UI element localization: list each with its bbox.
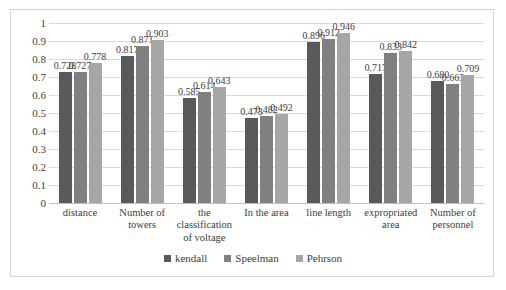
bar[interactable] <box>136 46 149 203</box>
bar-group: 0.8960.9120.946 <box>298 23 360 203</box>
gridline <box>49 203 484 204</box>
bar-value-label: 0.842 <box>395 40 418 50</box>
bar-value-label: 0.903 <box>146 29 169 39</box>
y-axis-tick-label: 0.6 <box>16 90 46 101</box>
bar-slot: 0.871 <box>136 23 149 203</box>
plot-area: 0.7280.7270.7780.8170.8710.9030.5850.614… <box>49 23 484 203</box>
bar[interactable] <box>151 40 164 203</box>
x-axis-category-label: distance <box>49 207 111 244</box>
bar-group: 0.7280.7270.778 <box>49 23 111 203</box>
bar-slot: 0.903 <box>151 23 164 203</box>
bar[interactable] <box>213 87 226 203</box>
y-axis-tick-label: 0.9 <box>16 36 46 47</box>
legend-swatch-icon <box>296 255 303 262</box>
bar[interactable] <box>322 39 335 203</box>
bar-group: 0.4730.4820.492 <box>235 23 297 203</box>
y-axis-tick-label: 0.8 <box>16 54 46 65</box>
bar[interactable] <box>183 98 196 203</box>
bar-slot: 0.614 <box>198 23 211 203</box>
bar[interactable] <box>369 74 382 203</box>
bar-slot: 0.643 <box>213 23 226 203</box>
x-axis-category-label: expropriated area <box>360 207 422 244</box>
x-axis-category-label: In the area <box>235 207 297 244</box>
bar-slot: 0.842 <box>399 23 412 203</box>
bar-value-label: 0.946 <box>332 22 355 32</box>
legend-swatch-icon <box>224 255 231 262</box>
legend-label: kendall <box>175 253 207 264</box>
bar[interactable] <box>121 56 134 203</box>
legend-label: Pehrson <box>307 253 342 264</box>
bar-slot: 0.778 <box>89 23 102 203</box>
bar[interactable] <box>337 33 350 203</box>
bar[interactable] <box>431 81 444 203</box>
y-axis-tick-label: 0.5 <box>16 108 46 119</box>
bar-groups: 0.7280.7270.7780.8170.8710.9030.5850.614… <box>49 23 484 203</box>
legend-item[interactable]: Pehrson <box>296 253 342 264</box>
y-axis-tick-label: 0.2 <box>16 162 46 173</box>
y-axis-tick-label: 0 <box>16 198 46 209</box>
bar[interactable] <box>307 42 320 203</box>
y-axis-tick-label: 1 <box>16 18 46 29</box>
bar-slot: 0.709 <box>461 23 474 203</box>
bar-slot: 0.817 <box>121 23 134 203</box>
bar-slot: 0.680 <box>431 23 444 203</box>
bar-value-label: 0.492 <box>270 103 293 113</box>
bar-value-label: 0.778 <box>84 52 107 62</box>
bar-slot: 0.663 <box>446 23 459 203</box>
x-axis-category-label: line length <box>298 207 360 244</box>
bar-value-label: 0.643 <box>208 76 231 86</box>
bar-value-label: 0.709 <box>457 64 480 74</box>
y-axis-tick-label: 0.3 <box>16 144 46 155</box>
y-axis-tick-label: 0.4 <box>16 126 46 137</box>
x-axis: distanceNumber of towersthe classificati… <box>49 207 484 244</box>
legend-label: Speelman <box>235 253 278 264</box>
legend-item[interactable]: Speelman <box>224 253 278 264</box>
bar-slot: 0.585 <box>183 23 196 203</box>
bar[interactable] <box>399 51 412 203</box>
chart-container: 10.90.80.70.60.50.40.30.20.10 0.7280.727… <box>10 9 494 277</box>
bar-group: 0.7170.8330.842 <box>360 23 422 203</box>
bar[interactable] <box>275 114 288 203</box>
bar[interactable] <box>74 72 87 203</box>
bar[interactable] <box>260 116 273 203</box>
bar[interactable] <box>245 118 258 203</box>
bar[interactable] <box>461 75 474 203</box>
bar[interactable] <box>384 53 397 203</box>
x-axis-category-label: Number of personnel <box>422 207 484 244</box>
y-axis-tick-label: 0.1 <box>16 180 46 191</box>
bar[interactable] <box>446 84 459 203</box>
x-axis-category-label: the classification of voltage <box>173 207 235 244</box>
bar-slot: 0.896 <box>307 23 320 203</box>
y-axis: 10.90.80.70.60.50.40.30.20.10 <box>13 23 46 203</box>
bar-group: 0.6800.6630.709 <box>422 23 484 203</box>
legend-swatch-icon <box>164 255 171 262</box>
bar-slot: 0.492 <box>275 23 288 203</box>
bar-group: 0.5850.6140.643 <box>173 23 235 203</box>
y-axis-tick-label: 0.7 <box>16 72 46 83</box>
bar-slot: 0.946 <box>337 23 350 203</box>
bar[interactable] <box>198 92 211 203</box>
bar[interactable] <box>89 63 102 203</box>
bar-group: 0.8170.8710.903 <box>111 23 173 203</box>
chart-legend: kendallSpeelmanPehrson <box>11 253 495 264</box>
bar-slot: 0.728 <box>59 23 72 203</box>
x-axis-category-label: Number of towers <box>111 207 173 244</box>
bar-slot: 0.912 <box>322 23 335 203</box>
bar[interactable] <box>59 72 72 203</box>
legend-item[interactable]: kendall <box>164 253 207 264</box>
